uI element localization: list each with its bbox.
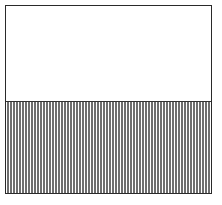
- split-rectangle: [5, 5, 212, 194]
- unshaded-top-half: [6, 6, 211, 101]
- hatched-bottom-half: [6, 102, 211, 193]
